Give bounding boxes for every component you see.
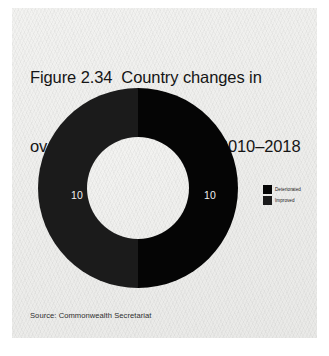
legend-label-improved: Improved bbox=[275, 198, 295, 203]
legend-swatch-deteriorated bbox=[263, 185, 272, 194]
donut-chart: 10 10 bbox=[38, 88, 238, 288]
slice-value-improved: 10 bbox=[60, 189, 94, 201]
legend-label-deteriorated: Deteriorated bbox=[275, 187, 301, 192]
title-line-1: Figure 2.34 Country changes in bbox=[30, 66, 310, 89]
chart-legend: Deteriorated Improved bbox=[263, 184, 317, 206]
legend-item-improved[interactable]: Improved bbox=[263, 195, 317, 205]
slice-value-deteriorated: 10 bbox=[193, 189, 227, 201]
donut-hole bbox=[87, 137, 189, 239]
legend-swatch-improved bbox=[263, 196, 272, 205]
chart-source: Source: Commonwealth Secretariat bbox=[30, 311, 151, 320]
legend-item-deteriorated[interactable]: Deteriorated bbox=[263, 184, 317, 194]
figure-panel: Figure 2.34 Country changes in overall Y… bbox=[12, 8, 317, 338]
